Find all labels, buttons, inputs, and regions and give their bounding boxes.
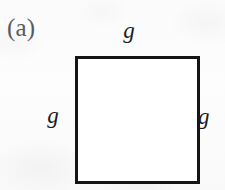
square-shape: [75, 56, 200, 184]
side-length-label-right: g: [198, 105, 222, 128]
side-length-label-top: g: [112, 19, 146, 42]
side-length-label-left: g: [38, 104, 68, 127]
panel-label: (a): [7, 13, 47, 43]
figure-panel: (a) g g g: [0, 0, 225, 190]
